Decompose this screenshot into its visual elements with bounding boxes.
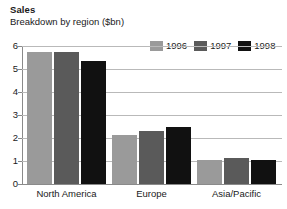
bar-europe-1996 xyxy=(112,135,137,184)
category-label-north-america: North America xyxy=(27,188,106,199)
bar-europe-1998 xyxy=(166,127,191,185)
bar-north-america-1996 xyxy=(27,52,52,184)
plot-area xyxy=(22,46,282,184)
y-tick-label-1: 1 xyxy=(2,156,18,166)
bar-north-america-1997 xyxy=(54,52,79,184)
chart-subtitle: Breakdown by region ($bn) xyxy=(10,16,124,27)
category-label-europe: Europe xyxy=(112,188,191,199)
bar-north-america-1998 xyxy=(81,61,106,184)
y-tick-label-5: 5 xyxy=(2,64,18,74)
bar-asia-pacific-1996 xyxy=(197,160,222,184)
bar-asia-pacific-1998 xyxy=(251,160,276,184)
y-tick-label-2: 2 xyxy=(2,133,18,143)
category-label-asia-pacific: Asia/Pacific xyxy=(197,188,276,199)
bar-asia-pacific-1997 xyxy=(224,158,249,184)
y-tick-label-0: 0 xyxy=(2,179,18,189)
y-tick-label-4: 4 xyxy=(2,87,18,97)
y-tick-label-6: 6 xyxy=(2,41,18,51)
sales-bar-chart: Sales Breakdown by region ($bn) 1996 199… xyxy=(0,0,287,209)
gridline-6 xyxy=(22,46,282,47)
y-tick-label-3: 3 xyxy=(2,110,18,120)
bar-europe-1997 xyxy=(139,131,164,184)
x-axis-line xyxy=(22,184,282,185)
y-axis-tick-labels: 6 5 4 3 2 1 0 xyxy=(0,0,18,209)
